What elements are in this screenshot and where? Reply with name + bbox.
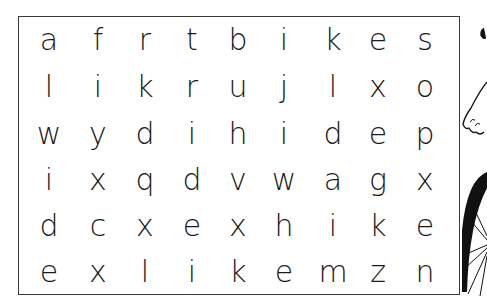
grid-letter[interactable]: x [356, 65, 400, 109]
grid-letter[interactable]: i [170, 112, 214, 156]
grid-letter[interactable]: x [403, 158, 447, 202]
grid-letter[interactable]: e [356, 112, 400, 156]
grid-letter[interactable]: y [76, 112, 120, 156]
grid-letter[interactable]: w [27, 112, 71, 156]
grid-letter[interactable]: x [123, 204, 167, 248]
grid-letter[interactable]: x [76, 250, 120, 294]
grid-letter[interactable]: i [76, 65, 120, 109]
grid-letter[interactable]: k [311, 18, 355, 62]
grid-letter[interactable]: u [216, 65, 260, 109]
grid-letter[interactable]: j [262, 65, 306, 109]
grid-letter[interactable]: h [262, 204, 306, 248]
grid-letter[interactable]: v [216, 158, 260, 202]
grid-letter[interactable]: e [27, 250, 71, 294]
grid-letter[interactable]: l [311, 65, 355, 109]
grid-letter[interactable]: o [403, 65, 447, 109]
grid-letter[interactable]: p [403, 112, 447, 156]
grid-letter[interactable]: i [27, 158, 71, 202]
grid-letter[interactable]: r [123, 18, 167, 62]
grid-letter[interactable]: e [170, 204, 214, 248]
grid-letter[interactable]: k [356, 204, 400, 248]
grid-letter[interactable]: i [170, 250, 214, 294]
grid-letter[interactable]: i [262, 18, 306, 62]
grid-letter[interactable]: f [76, 18, 120, 62]
grid-letter[interactable]: x [76, 158, 120, 202]
grid-letter[interactable]: a [27, 18, 71, 62]
grid-letter[interactable]: k [216, 250, 260, 294]
grid-letter[interactable]: d [27, 204, 71, 248]
grid-letter[interactable]: z [356, 250, 400, 294]
grid-letter[interactable]: q [123, 158, 167, 202]
grid-letter[interactable]: s [403, 18, 447, 62]
grid-letter[interactable]: i [311, 204, 355, 248]
grid-letter[interactable]: w [262, 158, 306, 202]
grid-letter[interactable]: b [216, 18, 260, 62]
grid-letter[interactable]: m [311, 250, 355, 294]
grid-letter[interactable]: d [170, 158, 214, 202]
grid-letter[interactable]: l [27, 65, 71, 109]
grid-letter[interactable]: e [262, 250, 306, 294]
grid-letter[interactable]: d [123, 112, 167, 156]
grid-letter[interactable]: c [76, 204, 120, 248]
grid-letter[interactable]: x [216, 204, 260, 248]
grid-letter[interactable]: g [356, 158, 400, 202]
grid-letter[interactable]: e [403, 204, 447, 248]
grid-letter[interactable]: i [262, 112, 306, 156]
grid-letter[interactable]: d [311, 112, 355, 156]
grid-letter[interactable]: a [311, 158, 355, 202]
grid-letter[interactable]: l [123, 250, 167, 294]
grid-letter[interactable]: n [403, 250, 447, 294]
grid-letter[interactable]: e [356, 18, 400, 62]
grid-letter[interactable]: k [123, 65, 167, 109]
grid-letter[interactable]: r [170, 65, 214, 109]
bike-illustration-icon [462, 0, 487, 305]
grid-letter[interactable]: h [216, 112, 260, 156]
grid-letter[interactable]: t [170, 18, 214, 62]
